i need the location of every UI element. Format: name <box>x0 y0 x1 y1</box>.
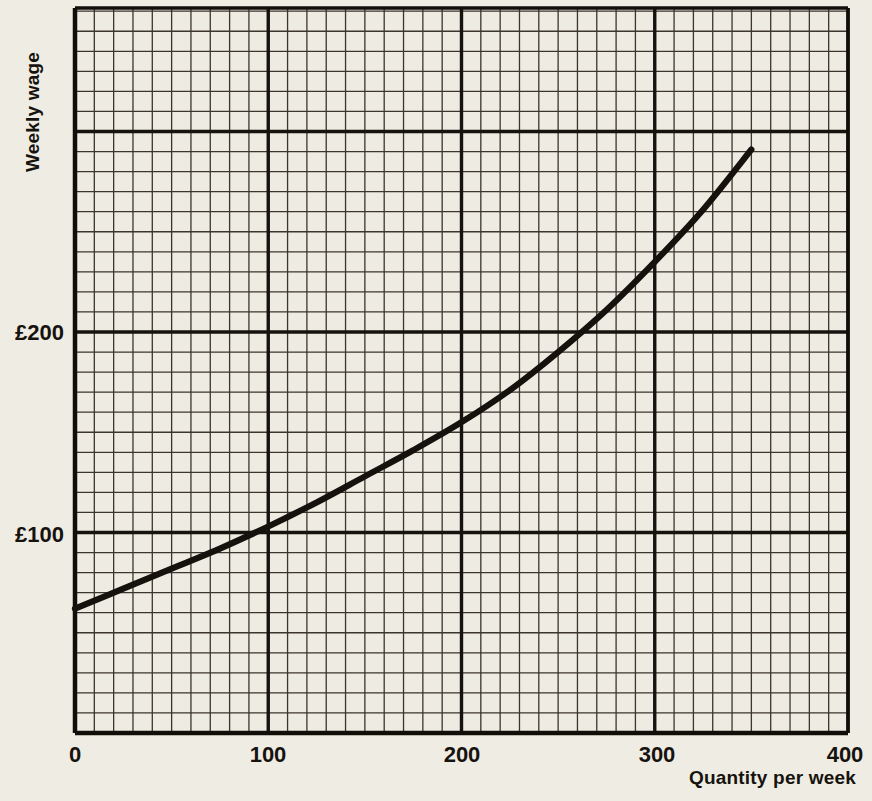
chart-figure: Weekly wage £200 £100 0 100 200 300 400 … <box>0 0 872 801</box>
plot-area <box>0 0 872 801</box>
